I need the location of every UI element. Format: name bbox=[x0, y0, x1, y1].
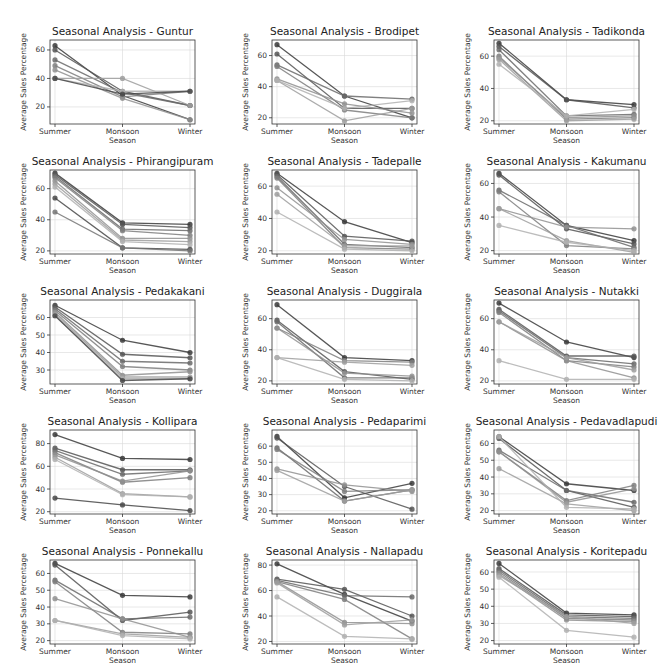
data-point bbox=[187, 228, 192, 233]
data-point bbox=[274, 435, 279, 440]
data-point bbox=[342, 597, 347, 602]
y-tick-label: 20 bbox=[479, 636, 489, 645]
y-tick-label: 40 bbox=[257, 612, 267, 621]
data-point bbox=[564, 505, 569, 510]
line-chart: Seasonal Analysis - Guntur204060SummerMo… bbox=[0, 0, 222, 145]
data-point bbox=[120, 616, 125, 621]
data-point bbox=[52, 562, 57, 567]
chart-panel-pedaparimi: Seasonal Analysis - Pedaparimi2030405060… bbox=[222, 390, 444, 520]
data-point bbox=[120, 228, 125, 233]
data-point bbox=[120, 378, 125, 383]
data-point bbox=[120, 593, 125, 598]
chart-grid: Seasonal Analysis - Guntur204060SummerMo… bbox=[0, 0, 664, 671]
chart-panel-brodipet: Seasonal Analysis - Brodipet204060Summer… bbox=[222, 0, 444, 130]
chart-panel-guntur: Seasonal Analysis - Guntur204060SummerMo… bbox=[0, 0, 222, 130]
data-point bbox=[496, 449, 501, 454]
data-point bbox=[120, 472, 125, 477]
data-point bbox=[120, 467, 125, 472]
y-tick-label: 50 bbox=[35, 331, 45, 340]
chart-panel-kollipara: Seasonal Analysis - Kollipara20406080Sum… bbox=[0, 390, 222, 520]
data-point bbox=[52, 579, 57, 584]
y-tick-label: 60 bbox=[479, 568, 489, 577]
data-point bbox=[120, 492, 125, 497]
x-tick-label: Monsoon bbox=[550, 647, 584, 656]
y-axis-label: Average Sales Percentage bbox=[463, 33, 472, 131]
chart-panel-pedakakani: Seasonal Analysis - Pedakakani30405060Su… bbox=[0, 260, 222, 390]
chart-panel-nallapadu: Seasonal Analysis - Nallapadu20406080Sum… bbox=[222, 520, 444, 650]
y-tick-label: 60 bbox=[479, 179, 489, 188]
y-tick-label: 20 bbox=[257, 506, 267, 515]
chart-title: Seasonal Analysis - Brodipet bbox=[270, 25, 419, 37]
data-point bbox=[274, 325, 279, 330]
y-tick-label: 40 bbox=[257, 474, 267, 483]
y-tick-label: 60 bbox=[479, 439, 489, 448]
y-axis-label: Average Sales Percentage bbox=[463, 553, 472, 651]
data-point bbox=[52, 618, 57, 623]
y-tick-label: 60 bbox=[257, 182, 267, 191]
y-tick-label: 60 bbox=[35, 462, 45, 471]
data-point bbox=[342, 498, 347, 503]
data-point bbox=[631, 621, 636, 626]
data-point bbox=[496, 310, 501, 315]
line-chart: Seasonal Analysis - Nallapadu20406080Sum… bbox=[222, 520, 444, 665]
chart-title: Seasonal Analysis - Tadepalle bbox=[267, 155, 421, 167]
line-chart: Seasonal Analysis - Pedavadlapudi2030405… bbox=[444, 390, 664, 535]
data-point bbox=[187, 468, 192, 473]
line-chart: Seasonal Analysis - Nutakki204060SummerM… bbox=[444, 260, 664, 405]
data-point bbox=[342, 377, 347, 382]
data-point bbox=[496, 575, 501, 580]
y-axis-label: Average Sales Percentage bbox=[241, 423, 250, 521]
y-tick-label: 40 bbox=[479, 213, 489, 222]
x-tick-label: Winter bbox=[400, 647, 426, 656]
x-axis-label: Season bbox=[331, 656, 358, 665]
data-point bbox=[274, 594, 279, 599]
data-point bbox=[274, 175, 279, 180]
chart-panel-koritepadu: Seasonal Analysis - Koritepadu2030405060… bbox=[444, 520, 664, 650]
x-axis-label: Season bbox=[553, 656, 580, 665]
data-point bbox=[631, 635, 636, 640]
data-point bbox=[187, 369, 192, 374]
data-point bbox=[342, 219, 347, 224]
line-chart: Seasonal Analysis - Pedaparimi2030405060… bbox=[222, 390, 444, 535]
data-point bbox=[187, 494, 192, 499]
chart-panel-ponnekallu: Seasonal Analysis - Ponnekallu2030405060… bbox=[0, 520, 222, 650]
data-point bbox=[187, 636, 192, 641]
line-chart: Seasonal Analysis - Brodipet204060Summer… bbox=[222, 0, 444, 145]
data-point bbox=[496, 319, 501, 324]
data-point bbox=[409, 243, 414, 248]
data-point bbox=[52, 596, 57, 601]
y-tick-label: 50 bbox=[35, 586, 45, 595]
y-tick-label: 60 bbox=[257, 314, 267, 323]
y-tick-label: 20 bbox=[257, 113, 267, 122]
data-point bbox=[631, 107, 636, 112]
y-axis-label: Average Sales Percentage bbox=[19, 423, 28, 521]
data-point bbox=[187, 376, 192, 381]
chart-panel-tadepalle: Seasonal Analysis - Tadepalle204060Summe… bbox=[222, 130, 444, 260]
y-tick-label: 40 bbox=[257, 82, 267, 91]
y-tick-label: 60 bbox=[257, 586, 267, 595]
data-point bbox=[187, 350, 192, 355]
data-point bbox=[631, 377, 636, 382]
x-tick-label: Summer bbox=[483, 647, 516, 656]
y-tick-label: 60 bbox=[35, 569, 45, 578]
data-point bbox=[52, 496, 57, 501]
data-point bbox=[120, 76, 125, 81]
data-point bbox=[342, 482, 347, 487]
data-point bbox=[52, 67, 57, 72]
data-point bbox=[409, 374, 414, 379]
data-point bbox=[409, 636, 414, 641]
y-tick-label: 60 bbox=[35, 45, 45, 54]
chart-title: Seasonal Analysis - Pedavadlapudi bbox=[476, 415, 658, 427]
data-point bbox=[274, 302, 279, 307]
chart-panel-tadikonda: Seasonal Analysis - Tadikonda204060Summe… bbox=[444, 0, 664, 130]
y-tick-label: 40 bbox=[35, 603, 45, 612]
data-point bbox=[409, 106, 414, 111]
data-point bbox=[564, 225, 569, 230]
y-tick-label: 20 bbox=[479, 116, 489, 125]
y-tick-label: 50 bbox=[479, 456, 489, 465]
data-point bbox=[120, 633, 125, 638]
chart-panel-duggirala: Seasonal Analysis - Duggirala204060Summe… bbox=[222, 260, 444, 390]
data-point bbox=[52, 195, 57, 200]
data-point bbox=[274, 185, 279, 190]
data-point bbox=[274, 209, 279, 214]
